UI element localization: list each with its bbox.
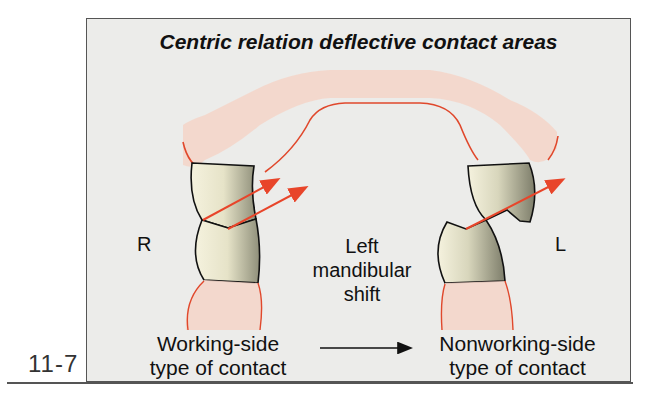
shift-label-line1: Left — [300, 234, 424, 258]
shift-label: Left mandibular shift — [300, 234, 424, 306]
maxillary-gingiva — [183, 70, 558, 172]
left-upper-tooth — [468, 163, 535, 222]
working-side-line1: Working-side — [96, 332, 340, 356]
nonworking-side-line2: type of contact — [405, 356, 630, 380]
left-side-label: L — [555, 232, 566, 256]
nonworking-side-label: Nonworking-side type of contact — [405, 332, 630, 380]
shift-label-line3: shift — [300, 282, 424, 306]
working-side-line2: type of contact — [96, 356, 340, 380]
working-side-label: Working-side type of contact — [96, 332, 340, 380]
left-mandibular-gingiva — [441, 281, 513, 330]
right-lower-tooth — [195, 219, 259, 283]
right-mandibular-gingiva — [186, 280, 262, 330]
nonworking-side-line1: Nonworking-side — [405, 332, 630, 356]
shift-label-line2: mandibular — [300, 258, 424, 282]
right-side-label: R — [137, 232, 151, 256]
left-lower-tooth — [438, 220, 505, 283]
